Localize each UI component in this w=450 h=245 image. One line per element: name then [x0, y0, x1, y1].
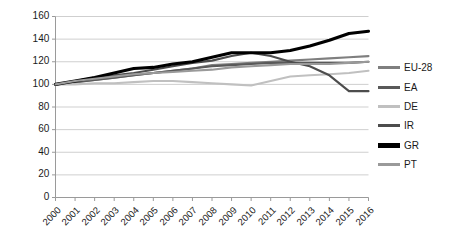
y-axis-tick-label: 140 [16, 34, 50, 44]
x-tick-marks [56, 198, 369, 202]
line-chart: 020406080100120140160 200020012002200320… [0, 0, 450, 245]
y-axis-tick-label: 20 [16, 169, 50, 179]
legend-item-label: IR [404, 120, 414, 131]
legend-swatch-icon [378, 124, 400, 127]
legend-item-label: EU-28 [404, 62, 432, 73]
y-axis-tick-label: 0 [16, 192, 50, 202]
legend-swatch-icon [378, 86, 400, 89]
legend-item-ir[interactable]: IR [378, 116, 450, 135]
legend-swatch-icon [378, 163, 400, 166]
legend-item-gr[interactable]: GR [378, 136, 450, 155]
legend-item-label: EA [404, 82, 417, 93]
y-axis-tick-label: 40 [16, 147, 50, 157]
y-axis-tick-label: 120 [16, 56, 50, 66]
y-axis-tick-label: 60 [16, 124, 50, 134]
legend-swatch-icon [378, 105, 400, 108]
y-axis-tick-label: 100 [16, 79, 50, 89]
legend-item-pt[interactable]: PT [378, 155, 450, 174]
legend-swatch-icon [378, 143, 400, 148]
y-axis-tick-label: 160 [16, 11, 50, 21]
legend-item-label: PT [404, 159, 417, 170]
legend-item-eu-28[interactable]: EU-28 [378, 58, 450, 77]
chart-legend: EU-28EADEIRGRPT [378, 58, 450, 174]
series-lines [56, 31, 369, 91]
legend-item-label: DE [404, 101, 418, 112]
legend-item-ea[interactable]: EA [378, 77, 450, 96]
legend-item-label: GR [404, 140, 419, 151]
legend-item-de[interactable]: DE [378, 97, 450, 116]
legend-swatch-icon [378, 66, 400, 69]
y-axis-tick-label: 80 [16, 102, 50, 112]
